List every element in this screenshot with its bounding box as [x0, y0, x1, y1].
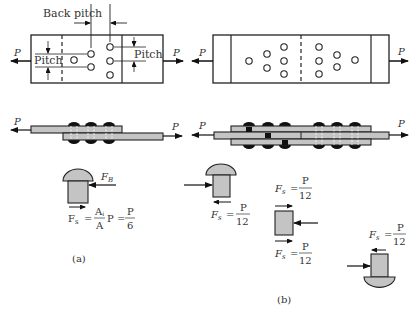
load-label-right: P	[397, 46, 405, 57]
svg-text:Fs: Fs	[68, 213, 79, 226]
svg-text:P: P	[240, 202, 247, 213]
svg-text:Fs: Fs	[274, 248, 286, 261]
butt-joint-plan-view: P P	[192, 35, 408, 83]
svg-text:12: 12	[393, 236, 406, 247]
pitch-label-right: Pitch	[134, 48, 163, 61]
shear-formula-a: Fs = Ai A P = P 6	[68, 206, 135, 231]
svg-text:=: =	[84, 213, 92, 224]
riveted-joint-diagram: Back pitch Pitch Pitch P P	[0, 0, 416, 315]
pitch-label-left: Pitch	[34, 54, 63, 67]
svg-text:=: =	[290, 183, 298, 194]
caption-b: (b)	[277, 294, 291, 305]
load-label-right: P	[172, 47, 180, 58]
load-label-left: P	[198, 47, 206, 58]
lap-joint-plan-view: Back pitch Pitch Pitch P P	[11, 4, 183, 83]
svg-text:=: =	[384, 229, 392, 240]
rivet-free-body-b-top: Fs = P 12	[184, 164, 250, 227]
svg-text:P: P	[397, 222, 404, 233]
shear-formula-b1: Fs = P 12	[210, 202, 250, 227]
caption-a: (a)	[72, 253, 86, 264]
rivet-free-body-a: FB Fs = Ai A P = P 6 (a)	[63, 169, 135, 264]
rivet-free-body-b-bottom: Fs = P 12	[347, 222, 406, 287]
svg-text:=: =	[226, 209, 234, 220]
svg-text:=: =	[290, 248, 298, 259]
svg-text:Fs: Fs	[368, 229, 380, 242]
side-load-label-left: P	[13, 116, 21, 127]
butt-joint-side-view: P P	[192, 118, 408, 149]
svg-text:12: 12	[236, 216, 249, 227]
svg-text:P =: P =	[107, 213, 125, 224]
svg-text:Fs: Fs	[274, 183, 286, 196]
shear-formula-b4: Fs = P 12	[368, 222, 406, 247]
shear-formula-b3: Fs = P 12	[274, 241, 312, 266]
svg-text:Ai: Ai	[94, 206, 104, 217]
svg-text:P: P	[127, 206, 134, 217]
svg-text:P: P	[302, 175, 309, 186]
side-load-label-right: P	[397, 118, 405, 129]
rivet-holes	[246, 44, 358, 77]
svg-text:A: A	[95, 220, 104, 231]
side-load-label-left: P	[198, 120, 206, 131]
shear-formula-b2: Fs = P 12	[274, 175, 312, 201]
svg-text:6: 6	[127, 220, 133, 231]
svg-text:FB: FB	[100, 171, 113, 184]
lap-joint-side-view: P P	[11, 116, 182, 144]
svg-text:12: 12	[299, 190, 312, 201]
svg-text:P: P	[302, 241, 309, 252]
back-pitch-label: Back pitch	[43, 7, 102, 20]
rivet-free-body-b-middle: Fs = P 12 Fs = P 12 (b)	[274, 175, 318, 305]
side-load-label-right: P	[171, 121, 179, 132]
svg-text:12: 12	[299, 255, 312, 266]
rivet-holes	[71, 44, 113, 78]
load-label-left: P	[13, 47, 21, 58]
svg-text:Fs: Fs	[210, 209, 222, 222]
